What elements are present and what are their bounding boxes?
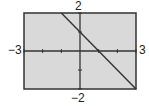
- ymax-label: 2: [75, 0, 82, 12]
- xmax-label: 3: [139, 44, 146, 56]
- ymin-label: −2: [71, 92, 85, 104]
- xmin-label: −3: [8, 44, 22, 56]
